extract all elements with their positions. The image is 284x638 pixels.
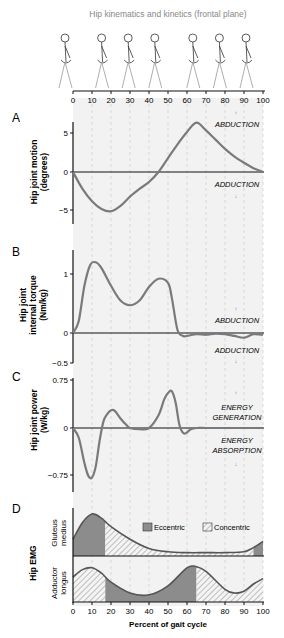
annot-adduction-a: ADDUCTION bbox=[214, 180, 260, 189]
svg-text:10: 10 bbox=[88, 96, 97, 105]
yticks-a: 5 0 −5 bbox=[59, 129, 73, 215]
svg-text:0: 0 bbox=[71, 96, 76, 105]
svg-text:20: 20 bbox=[107, 96, 116, 105]
svg-text:ENERGY: ENERGY bbox=[221, 436, 254, 445]
svg-text:GENERATION: GENERATION bbox=[212, 413, 262, 422]
arrow-up-icon: ↑ bbox=[235, 306, 238, 312]
yticks-c: 0.75 0 −0.75 bbox=[48, 376, 73, 480]
svg-text:0: 0 bbox=[64, 424, 69, 433]
gait-chart: Hip kinematics and kinetics (frontal pla… bbox=[0, 0, 284, 638]
figure-title: Hip kinematics and kinetics (frontal pla… bbox=[89, 9, 246, 19]
x-axis-label: Percent of gait cycle bbox=[129, 620, 207, 629]
yticks-b: 1 0 −0.5 bbox=[52, 270, 73, 368]
svg-text:medius: medius bbox=[59, 520, 68, 546]
svg-text:90: 90 bbox=[240, 96, 249, 105]
legend-concentric-swatch bbox=[203, 523, 212, 531]
arrow-up-icon: ↑ bbox=[235, 110, 238, 116]
svg-text:60: 60 bbox=[183, 607, 192, 616]
legend-eccentric-swatch bbox=[143, 523, 152, 531]
svg-text:0: 0 bbox=[71, 607, 76, 616]
walking-figures bbox=[59, 34, 253, 88]
annot-abduction-a: ABDUCTION bbox=[214, 120, 260, 129]
svg-text:Concentric: Concentric bbox=[214, 523, 250, 532]
svg-text:0.75: 0.75 bbox=[52, 376, 68, 385]
svg-text:Hip joint motion: Hip joint motion bbox=[29, 140, 39, 205]
panel-label-a: A bbox=[12, 111, 20, 125]
svg-text:Eccentric: Eccentric bbox=[154, 523, 185, 532]
svg-text:Hip joint power: Hip joint power bbox=[29, 389, 39, 451]
svg-text:0: 0 bbox=[64, 168, 69, 177]
panel-label-c: C bbox=[12, 370, 21, 384]
svg-text:40: 40 bbox=[145, 607, 154, 616]
panel-label-b: B bbox=[12, 245, 20, 259]
svg-text:90: 90 bbox=[240, 607, 249, 616]
svg-text:50: 50 bbox=[164, 607, 173, 616]
svg-text:−5: −5 bbox=[59, 206, 69, 215]
arrow-up-icon: ↑ bbox=[235, 390, 238, 396]
svg-text:ENERGY: ENERGY bbox=[221, 403, 254, 412]
panel-label-d: D bbox=[12, 502, 21, 516]
svg-text:20: 20 bbox=[107, 607, 116, 616]
arrow-down-icon: ↓ bbox=[235, 358, 238, 364]
svg-text:internal torque: internal torque bbox=[28, 275, 38, 335]
svg-text:100: 100 bbox=[256, 96, 270, 105]
svg-text:0: 0 bbox=[64, 329, 69, 338]
svg-text:30: 30 bbox=[126, 607, 135, 616]
svg-text:longus: longus bbox=[59, 571, 68, 595]
svg-text:10: 10 bbox=[88, 607, 97, 616]
svg-text:70: 70 bbox=[202, 96, 211, 105]
svg-text:Adductor: Adductor bbox=[50, 567, 59, 599]
svg-text:40: 40 bbox=[145, 96, 154, 105]
svg-text:(degrees): (degrees) bbox=[39, 153, 49, 191]
svg-text:−0.75: −0.75 bbox=[48, 471, 69, 480]
svg-text:100: 100 bbox=[256, 607, 270, 616]
svg-text:Hip EMG: Hip EMG bbox=[28, 545, 38, 581]
svg-text:Hip joint: Hip joint bbox=[18, 288, 28, 322]
ylabel-c: Hip joint power (W/kg) bbox=[29, 389, 49, 451]
svg-text:30: 30 bbox=[126, 96, 135, 105]
svg-text:(Nm/kg): (Nm/kg) bbox=[38, 289, 48, 321]
svg-text:1: 1 bbox=[64, 270, 69, 279]
annot-abduction-b: ABDUCTION bbox=[214, 316, 260, 325]
svg-text:70: 70 bbox=[202, 607, 211, 616]
ylabel-d: Hip EMG Gluteus medius Adductor longus bbox=[28, 519, 68, 599]
annot-adduction-b: ADDUCTION bbox=[214, 346, 260, 355]
svg-text:Gluteus: Gluteus bbox=[50, 519, 59, 547]
svg-text:5: 5 bbox=[64, 129, 69, 138]
svg-text:ABSORPTION: ABSORPTION bbox=[211, 446, 262, 455]
svg-text:(W/kg): (W/kg) bbox=[39, 407, 49, 433]
arrow-down-icon: ↓ bbox=[235, 461, 238, 467]
svg-text:50: 50 bbox=[164, 96, 173, 105]
svg-text:60: 60 bbox=[183, 96, 192, 105]
ylabel-b: Hip joint internal torque (Nm/kg) bbox=[18, 275, 48, 335]
svg-text:−0.5: −0.5 bbox=[52, 359, 68, 368]
ylabel-a: Hip joint motion (degrees) bbox=[29, 140, 49, 205]
arrow-down-icon: ↓ bbox=[235, 193, 238, 199]
svg-text:80: 80 bbox=[221, 607, 230, 616]
svg-text:80: 80 bbox=[221, 96, 230, 105]
